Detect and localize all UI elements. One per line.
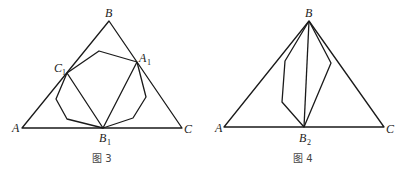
figure-4: A B C B 2 图 4 (214, 6, 395, 164)
octagon (56, 51, 146, 128)
label-a1: A (138, 51, 147, 65)
caption-fig3: 图 3 (92, 153, 112, 164)
label-c: C (386, 122, 395, 136)
median-line (304, 21, 309, 127)
label-a1-sub: 1 (147, 58, 151, 67)
label-a: A (11, 121, 20, 135)
caption-fig4: 图 4 (293, 153, 313, 164)
label-b2-sub: 2 (307, 138, 311, 147)
label-c: C (184, 122, 193, 136)
label-b: B (105, 6, 113, 20)
triangle-abc (224, 21, 384, 127)
inner-lines (67, 62, 137, 128)
label-b1-sub: 1 (107, 138, 111, 147)
figure-3: A B C C 1 A 1 B 1 图 3 (11, 6, 193, 164)
label-b1: B (99, 131, 107, 145)
triangle-abc (22, 21, 182, 128)
label-b2: B (299, 131, 307, 145)
diagram-canvas: A B C C 1 A 1 B 1 图 3 A B C B 2 图 4 (0, 0, 401, 172)
label-c1-sub: 1 (62, 68, 66, 77)
label-b: B (305, 6, 313, 20)
label-a: A (214, 121, 223, 135)
